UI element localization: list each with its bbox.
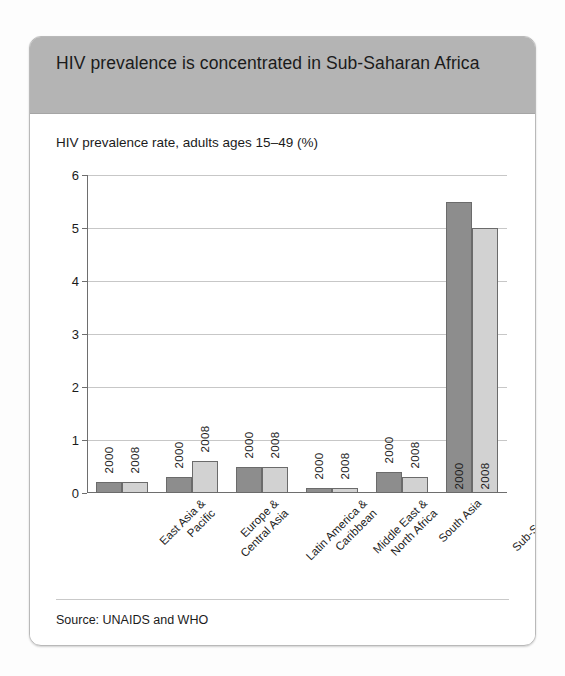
chart-card: HIV prevalence is concentrated in Sub-Sa… bbox=[29, 36, 536, 646]
bar-2008[interactable]: 2008 bbox=[402, 477, 428, 493]
bar-2000[interactable]: 2000 bbox=[236, 467, 262, 494]
y-axis-tick-label: 6 bbox=[72, 168, 79, 183]
bar-2000[interactable]: 2000 bbox=[96, 482, 122, 493]
bar-year-label: 2008 bbox=[199, 426, 211, 453]
y-axis-tick-label: 4 bbox=[72, 274, 79, 289]
bar-year-label: 2000 bbox=[313, 452, 325, 479]
bar-year-label: 2008 bbox=[409, 442, 421, 469]
card-body: HIV prevalence rate, adults ages 15–49 (… bbox=[30, 114, 535, 644]
y-axis-tick-mark bbox=[82, 493, 87, 494]
bar-group: 20002008 bbox=[236, 175, 288, 493]
footer-divider bbox=[56, 599, 509, 600]
screenshot-page: HIV prevalence is concentrated in Sub-Sa… bbox=[0, 0, 565, 676]
source-note: Source: UNAIDS and WHO bbox=[56, 613, 208, 627]
bar-year-label: 2000 bbox=[243, 431, 255, 458]
page-title: HIV prevalence is concentrated in Sub-Sa… bbox=[56, 51, 509, 76]
bar-year-label: 2000 bbox=[383, 436, 395, 463]
bar-2008[interactable]: 2008 bbox=[472, 228, 498, 493]
y-axis-tick-label: 2 bbox=[72, 380, 79, 395]
x-axis-label: South Asia bbox=[436, 497, 484, 545]
bar-2008[interactable]: 2008 bbox=[332, 488, 358, 493]
x-axis-label: Middle East &North Africa bbox=[371, 497, 440, 566]
bar-year-label: 2008 bbox=[479, 463, 491, 490]
card-header: HIV prevalence is concentrated in Sub-Sa… bbox=[30, 37, 535, 114]
bar-series-container: 2000200820002008200020082000200820002008… bbox=[87, 175, 507, 493]
bar-group: 20002008 bbox=[96, 175, 148, 493]
bar-year-label: 2008 bbox=[269, 431, 281, 458]
bar-group: 20002008 bbox=[166, 175, 218, 493]
x-axis-label: Latin America &Caribbean bbox=[304, 497, 380, 573]
chart-subtitle: HIV prevalence rate, adults ages 15–49 (… bbox=[56, 135, 318, 150]
bar-year-label: 2008 bbox=[339, 452, 351, 479]
bar-2000[interactable]: 2000 bbox=[306, 488, 332, 493]
x-axis-category-labels: East Asia &PacificEurope &Central AsiaLa… bbox=[87, 497, 507, 592]
x-axis-label-line: South Asia bbox=[436, 497, 484, 545]
bar-group: 20002008 bbox=[446, 175, 498, 493]
bar-year-label: 2000 bbox=[173, 442, 185, 469]
y-axis-tick-label: 1 bbox=[72, 433, 79, 448]
y-axis-tick-label: 5 bbox=[72, 221, 79, 236]
bar-2000[interactable]: 2000 bbox=[446, 202, 472, 494]
x-axis-label: East Asia &Pacific bbox=[157, 497, 218, 558]
bar-group: 20002008 bbox=[306, 175, 358, 493]
y-axis-tick-label: 3 bbox=[72, 327, 79, 342]
bar-2008[interactable]: 2008 bbox=[122, 482, 148, 493]
bar-2000[interactable]: 2000 bbox=[376, 472, 402, 493]
x-axis-label: Sub-SaharanAfrica bbox=[510, 497, 536, 564]
plot-area: 0123456 20002008200020082000200820002008… bbox=[87, 175, 507, 493]
bar-2008[interactable]: 2008 bbox=[262, 467, 288, 494]
bar-year-label: 2008 bbox=[129, 447, 141, 474]
bar-group: 20002008 bbox=[376, 175, 428, 493]
bar-2000[interactable]: 2000 bbox=[166, 477, 192, 493]
bar-year-label: 2000 bbox=[103, 447, 115, 474]
bar-2008[interactable]: 2008 bbox=[192, 461, 218, 493]
x-axis-label: Europe &Central Asia bbox=[228, 497, 291, 560]
y-axis-tick-label: 0 bbox=[72, 486, 79, 501]
bar-year-label: 2000 bbox=[453, 463, 465, 490]
